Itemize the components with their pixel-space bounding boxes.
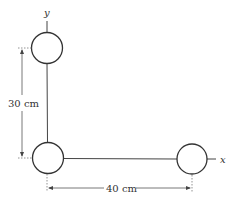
- mass-origin: [33, 143, 64, 174]
- vertical-rod: [47, 63, 48, 143]
- arrow-right-icon: [186, 186, 191, 190]
- x-axis-label: x: [220, 154, 226, 165]
- diagram-canvas: y x 30 cm 40 cm: [0, 0, 235, 200]
- vertical-dim-label: 30 cm: [8, 98, 40, 109]
- mass-top: [32, 33, 63, 64]
- horizontal-dim-label: 40 cm: [106, 183, 138, 194]
- arrow-down-icon: [20, 152, 24, 157]
- arrow-left-icon: [48, 186, 53, 190]
- horizontal-rod: [63, 159, 177, 160]
- mass-right: [177, 144, 207, 174]
- arrow-up-icon: [20, 49, 24, 54]
- y-axis-label: y: [43, 7, 50, 18]
